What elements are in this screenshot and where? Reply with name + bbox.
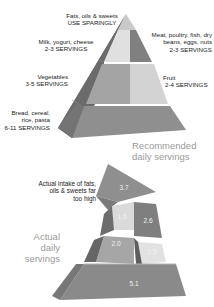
actual-caption: Actual daily servings [20, 231, 60, 264]
actual-value-grains: 5.1 [129, 280, 138, 287]
actual-value-fruit: 1.5 [147, 248, 156, 255]
actual-value-fats: 3.7 [119, 184, 128, 191]
recommended-caption: Recommended daily servings [132, 140, 196, 162]
actual-fats-block [96, 164, 156, 202]
label-fruit: Fruit 2-4 SERVINGS [163, 74, 213, 89]
label-vegetables: Vegetables 3-5 SERVINGS [0, 73, 68, 88]
label-grains: Bread, cereal, rice, pasta 6-11 SERVINGS [0, 109, 50, 131]
actual-value-protein: 2.6 [143, 217, 152, 224]
label-protein: Meat, poultry, fish, dry beans, eggs, nu… [140, 31, 212, 53]
label-fats: Fats, oils & sweets USE SPARINGLY [56, 12, 128, 27]
actual-annotation: Actual intake of fats, oils & sweets far… [20, 180, 96, 202]
label-dairy: Milk, yogurt, cheese 2-3 SERVINGS [30, 38, 102, 53]
actual-value-dairy: 1.5 [117, 213, 126, 220]
actual-value-vegetables: 2.0 [111, 240, 120, 247]
